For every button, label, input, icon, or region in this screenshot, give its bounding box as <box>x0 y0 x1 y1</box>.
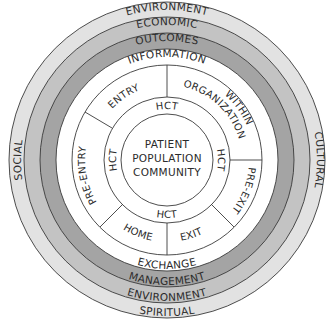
center-line-population: POPULATION <box>132 152 202 164</box>
hct-top-label: HCT <box>155 100 179 112</box>
hct-left-label: HCT <box>107 147 119 171</box>
hct-right-label: HCT <box>215 148 227 172</box>
concentric-care-diagram: ENVIRONMENT SPIRITUAL SOCIAL CULTURAL EC… <box>0 0 334 322</box>
center-line-community: COMMUNITY <box>133 166 201 178</box>
center-line-patient: PATIENT <box>145 138 190 150</box>
hct-bottom-label: HCT <box>156 208 178 220</box>
